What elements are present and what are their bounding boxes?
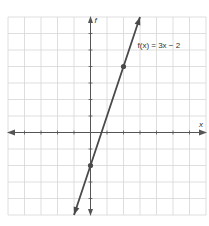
equation-label: f(x) = 3x − 2 — [138, 41, 181, 50]
function-graph: x f f(x) = 3x − 2 — [0, 0, 209, 226]
x-axis-label: x — [198, 120, 204, 129]
data-point — [88, 163, 93, 168]
data-point — [121, 64, 126, 69]
